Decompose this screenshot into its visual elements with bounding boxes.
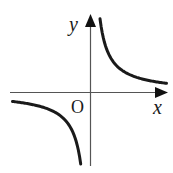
- x-axis-label: x: [152, 96, 162, 118]
- y-axis-arrow-icon: [85, 14, 96, 27]
- origin-label: O: [71, 97, 84, 117]
- hyperbola-branch-first-quadrant: [100, 19, 167, 83]
- hyperbola-diagram: y x O: [0, 0, 173, 173]
- y-axis-label: y: [67, 13, 78, 36]
